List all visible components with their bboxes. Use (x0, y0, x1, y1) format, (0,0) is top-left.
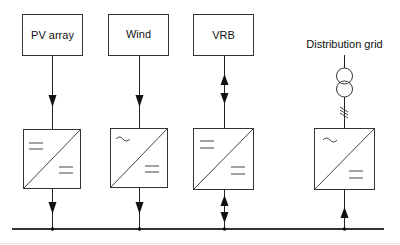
vrb-up-arrow-icon (221, 74, 229, 85)
transformer-icon (337, 68, 353, 97)
pv-down-arrow-icon (49, 202, 57, 214)
vrb-up-arrow-icon (221, 195, 229, 206)
junction-dot-icon (343, 227, 347, 231)
vrb-branch: VRB (194, 15, 254, 230)
vrb-down-arrow-icon (221, 212, 229, 223)
junction-dot-icon (51, 227, 55, 231)
pv-array-label: PV array (31, 29, 74, 41)
wind-branch: Wind (109, 15, 169, 230)
pv-branch: PV array (23, 15, 83, 230)
pv-down-arrow-icon (49, 95, 57, 107)
vrb-converter (194, 129, 254, 190)
grid-converter (315, 129, 375, 190)
vrb-down-arrow-icon (221, 93, 229, 104)
distribution-grid-label: Distribution grid (306, 38, 382, 50)
wind-converter (111, 129, 168, 188)
grid-branch: Distribution grid (306, 38, 382, 229)
power-system-diagram: PV array Wind (0, 0, 400, 245)
wind-label: Wind (126, 28, 151, 40)
junction-dot-icon (223, 227, 227, 231)
grid-up-arrow-icon (341, 207, 349, 218)
wind-down-arrow-icon (136, 202, 144, 214)
pv-converter (24, 130, 81, 189)
wind-down-arrow-icon (136, 95, 144, 107)
junction-dot-icon (138, 227, 142, 231)
vrb-label: VRB (212, 29, 235, 41)
